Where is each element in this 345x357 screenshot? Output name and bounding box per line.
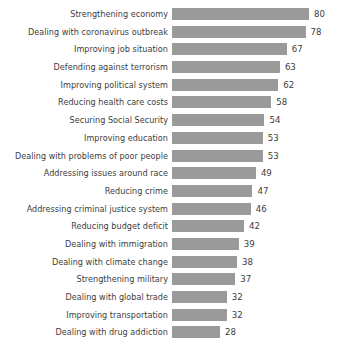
bar-track: 78	[172, 26, 345, 38]
bar	[172, 150, 263, 162]
bar-row: Reducing crime47	[0, 185, 345, 197]
category-label: Addressing criminal justice system	[0, 203, 172, 215]
bar-value-label: 58	[276, 96, 287, 108]
bar-track: 63	[172, 61, 345, 73]
bar	[172, 185, 252, 197]
bar	[172, 256, 237, 268]
category-label: Securing Social Security	[0, 114, 172, 126]
bar-row: Dealing with drug addiction28	[0, 326, 345, 338]
bar-track: 62	[172, 79, 345, 91]
bar	[172, 167, 256, 179]
bar-track: 54	[172, 114, 345, 126]
bar-track: 28	[172, 326, 345, 338]
category-label: Dealing with immigration	[0, 238, 172, 250]
bar-value-label: 32	[232, 309, 243, 321]
category-label: Improving job situation	[0, 43, 172, 55]
category-label: Dealing with coronavirus outbreak	[0, 26, 172, 38]
category-label: Strengthening economy	[0, 8, 172, 20]
bar	[172, 96, 271, 108]
bar-value-label: 62	[283, 79, 294, 91]
bar	[172, 114, 264, 126]
bar	[172, 61, 280, 73]
horizontal-bar-chart: Strengthening economy80Dealing with coro…	[0, 0, 345, 357]
bar-track: 32	[172, 309, 345, 321]
bar-row: Defending against terrorism63	[0, 61, 345, 73]
category-label: Reducing budget deficit	[0, 220, 172, 232]
bar-value-label: 67	[292, 43, 303, 55]
category-label: Reducing health care costs	[0, 96, 172, 108]
category-label: Dealing with problems of poor people	[0, 150, 172, 162]
category-label: Addressing issues around race	[0, 167, 172, 179]
bar-value-label: 46	[256, 203, 267, 215]
bar	[172, 291, 227, 303]
bar-row: Dealing with global trade32	[0, 291, 345, 303]
bar	[172, 220, 244, 232]
category-label: Dealing with climate change	[0, 256, 172, 268]
category-label: Improving political system	[0, 79, 172, 91]
bar-value-label: 53	[268, 150, 279, 162]
bar-row: Strengthening military37	[0, 273, 345, 285]
bar-row: Securing Social Security54	[0, 114, 345, 126]
bar-track: 42	[172, 220, 345, 232]
bar-value-label: 28	[225, 326, 236, 338]
bar-track: 32	[172, 291, 345, 303]
bar	[172, 203, 251, 215]
category-label: Reducing crime	[0, 185, 172, 197]
bar-value-label: 37	[240, 273, 251, 285]
bar	[172, 273, 235, 285]
bar-row: Improving political system62	[0, 79, 345, 91]
bar-row: Dealing with coronavirus outbreak78	[0, 26, 345, 38]
bar-track: 46	[172, 203, 345, 215]
bar-row: Improving transportation32	[0, 309, 345, 321]
bar-value-label: 78	[311, 26, 322, 38]
bar-value-label: 63	[285, 61, 296, 73]
bar-track: 47	[172, 185, 345, 197]
bar	[172, 132, 263, 144]
bar-value-label: 49	[261, 167, 272, 179]
bar	[172, 79, 278, 91]
bar-value-label: 80	[314, 8, 325, 20]
bar-row: Improving education53	[0, 132, 345, 144]
bar-value-label: 42	[249, 220, 260, 232]
bar-track: 58	[172, 96, 345, 108]
category-label: Improving education	[0, 132, 172, 144]
bar-track: 49	[172, 167, 345, 179]
bar-track: 38	[172, 256, 345, 268]
bar-track: 80	[172, 8, 345, 20]
bar-track: 39	[172, 238, 345, 250]
bar	[172, 8, 309, 20]
bar-row: Improving job situation67	[0, 43, 345, 55]
category-label: Improving transportation	[0, 309, 172, 321]
bar-track: 53	[172, 132, 345, 144]
category-label: Dealing with drug addiction	[0, 326, 172, 338]
bar-row: Dealing with immigration39	[0, 238, 345, 250]
bar-track: 53	[172, 150, 345, 162]
bar-row: Addressing criminal justice system46	[0, 203, 345, 215]
bar-row: Strengthening economy80	[0, 8, 345, 20]
bar	[172, 309, 227, 321]
bar	[172, 43, 287, 55]
bar-row: Reducing health care costs58	[0, 96, 345, 108]
bar-value-label: 53	[268, 132, 279, 144]
bar-row: Dealing with climate change38	[0, 256, 345, 268]
bar	[172, 26, 306, 38]
category-label: Defending against terrorism	[0, 61, 172, 73]
bar-value-label: 32	[232, 291, 243, 303]
bar	[172, 326, 220, 338]
bar-row: Dealing with problems of poor people53	[0, 150, 345, 162]
bar-track: 37	[172, 273, 345, 285]
bar-row: Reducing budget deficit42	[0, 220, 345, 232]
bar-value-label: 39	[244, 238, 255, 250]
category-label: Dealing with global trade	[0, 291, 172, 303]
bar-value-label: 54	[269, 114, 280, 126]
bar-row: Addressing issues around race49	[0, 167, 345, 179]
category-label: Strengthening military	[0, 273, 172, 285]
bar	[172, 238, 239, 250]
bar-track: 67	[172, 43, 345, 55]
bar-value-label: 47	[257, 185, 268, 197]
bar-value-label: 38	[242, 256, 253, 268]
